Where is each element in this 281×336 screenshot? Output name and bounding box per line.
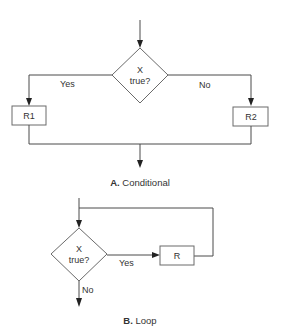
arrow-down-icon <box>26 98 32 106</box>
arrow-down-icon <box>76 220 82 228</box>
no-label: No <box>82 285 94 295</box>
merge-line <box>29 125 251 144</box>
caption-letter: B. <box>123 315 133 326</box>
arrow-down-icon <box>137 40 143 48</box>
arrow-down-icon <box>76 298 82 307</box>
yes-label: Yes <box>60 79 75 89</box>
arrow-down-icon <box>137 160 143 168</box>
decision-text-line2: true? <box>69 255 90 265</box>
caption-loop: B. Loop <box>123 315 156 326</box>
conditional-diagram: X true? Yes No R1 R2 A. Conditional <box>12 20 268 188</box>
caption-text: Loop <box>133 315 157 326</box>
decision-text-line2: true? <box>130 76 151 86</box>
decision-text-line1: X <box>76 244 82 254</box>
arrow-right-icon <box>152 252 160 258</box>
loop-diagram: X true? Yes R No B. Loop <box>51 198 213 326</box>
no-label: No <box>199 80 211 90</box>
caption-conditional: A. Conditional <box>110 177 170 188</box>
decision-text-line1: X <box>137 65 143 75</box>
caption-letter: A. <box>110 177 120 188</box>
flowchart-diagram: X true? Yes No R1 R2 A. Conditional X tr… <box>0 0 281 336</box>
process-box-r1-label: R1 <box>23 111 35 121</box>
caption-text: Conditional <box>120 177 170 188</box>
process-box-r2-label: R2 <box>245 112 257 122</box>
process-box-r-label: R <box>174 251 181 261</box>
yes-label: Yes <box>119 258 134 268</box>
arrow-down-icon <box>248 98 254 106</box>
